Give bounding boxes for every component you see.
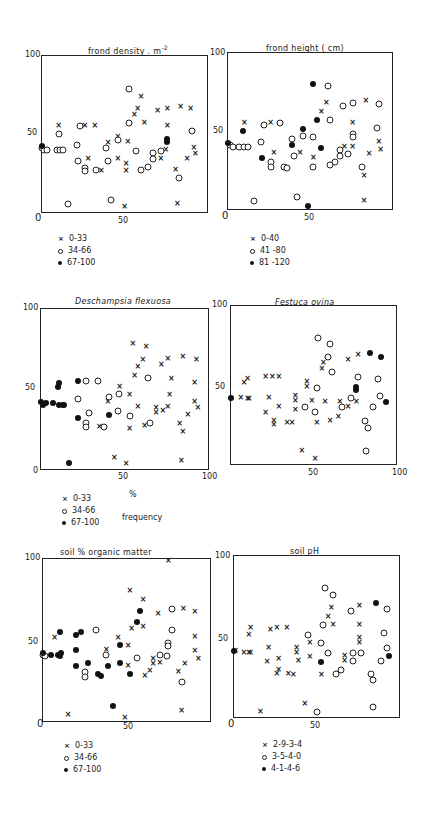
legend-label: 4-1-4-6 [271,763,300,775]
filled-circle-data-point [383,399,389,405]
cross-data-point [322,398,329,406]
open-circle-data-point [338,404,345,411]
open-circle-data-point [83,424,90,431]
open-circle-data-point [328,369,335,376]
open-circle-data-point [114,137,121,144]
open-circle-data-point [75,157,82,164]
cross-data-point [195,404,202,412]
open-circle-data-point [325,82,332,89]
filled-circle-data-point [300,126,306,132]
cross-data-point [341,657,348,665]
filled-circle-data-point [50,400,56,406]
open-circle-data-point [361,418,368,425]
plot-area [41,55,208,213]
filled-circle-data-point [56,380,62,386]
x-tick-100: 100 [202,472,217,481]
cross-data-point [312,455,319,463]
cross-data-point [172,166,179,174]
open-circle-data-point [384,644,391,651]
cross-data-point [165,403,172,411]
open-circle-data-point [267,163,274,170]
filled-circle-marker-icon [62,521,66,525]
filled-circle-data-point [78,629,84,635]
open-circle-data-point [321,585,328,592]
y-tick-50: 50 [215,382,225,391]
open-circle-data-point [60,146,67,153]
cross-data-point [135,403,142,411]
cross-data-point [304,378,311,386]
open-circle-data-point [375,101,382,108]
open-circle-data-point [146,419,153,426]
filled-circle-data-point [259,155,265,161]
filled-circle-data-point [75,415,81,421]
x-tick-50: 50 [118,216,128,225]
filled-circle-data-point [367,350,373,356]
open-circle-data-point [114,408,121,415]
cross-data-point [111,454,118,462]
legend-label: 34-66 [72,505,95,517]
cross-data-point [51,634,58,642]
cross-data-point [140,356,147,364]
cross-data-point [318,671,325,679]
legend-label: 34-66 [68,245,91,257]
open-circle-data-point [293,193,300,200]
cross-data-point [165,557,172,565]
filled-circle-data-point [85,660,91,666]
open-circle-marker-icon [62,509,67,514]
filled-circle-data-point [58,650,64,656]
filled-circle-marker-icon [64,768,68,772]
open-circle-data-point [103,651,110,658]
open-circle-data-point [149,155,156,162]
open-circle-data-point [344,151,351,158]
cross-data-point [178,707,185,715]
cross-data-point [123,460,130,468]
filled-circle-data-point [310,81,316,87]
open-circle-data-point [327,340,334,347]
open-circle-data-point [363,448,370,455]
open-circle-data-point [315,334,322,341]
cross-data-point [191,379,198,387]
cross-data-point [168,375,175,383]
cross-data-point [345,403,352,411]
open-circle-data-point [349,649,356,656]
open-circle-data-point [116,390,123,397]
filled-circle-marker-icon [250,261,254,265]
cross-data-point [157,659,164,667]
filled-circle-data-point [305,203,311,209]
open-circle-data-point [381,630,388,637]
open-circle-data-point [157,148,164,155]
legend-label: 3-5-4-0 [272,751,301,763]
legend-label: 67-100 [71,517,99,529]
open-circle-data-point [326,117,333,124]
cross-data-point [295,657,302,665]
cross-data-point [180,605,187,613]
open-circle-data-point [101,424,108,431]
open-circle-data-point [106,394,113,401]
open-circle-data-point [313,385,320,392]
open-circle-data-point [133,654,140,661]
cross-data-point [157,155,164,163]
x-tick-100: 100 [392,468,407,477]
cross-data-point [125,642,132,650]
open-circle-data-point [376,393,383,400]
legend-label: 0-33 [69,233,87,245]
open-circle-data-point [300,132,307,139]
cross-data-point [246,395,253,403]
chart-title: soil % organic matter [60,548,152,557]
filled-circle-data-point [134,619,140,625]
open-circle-data-point [165,643,172,650]
open-circle-data-point [284,165,291,172]
filled-circle-data-point [39,143,45,149]
cross-data-point [115,155,122,163]
filled-circle-data-point [48,652,54,658]
filled-circle-data-point [73,647,79,653]
cross-data-point [247,649,254,657]
y-tick-100: 100 [210,48,225,57]
legend-label: 0-33 [75,740,93,752]
cross-data-point [192,633,199,641]
open-circle-data-point [349,657,356,664]
legend-label: 2-9-3-4 [273,739,302,751]
cross-data-point [166,391,173,399]
open-circle-data-point [144,163,151,170]
cross-data-point [126,587,133,595]
